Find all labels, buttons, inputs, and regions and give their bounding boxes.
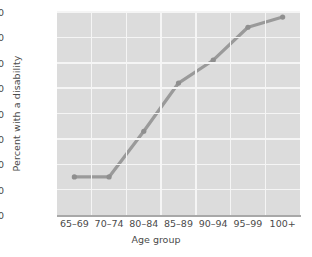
- data-point-marker: [106, 174, 111, 179]
- data-point-marker: [245, 25, 250, 30]
- x-tick-label: 90–94: [199, 218, 228, 229]
- disability-by-age-line-chart: Percent with a disability Age group 0102…: [0, 0, 312, 257]
- gridline-vertical: [265, 12, 267, 215]
- gridline-vertical: [230, 12, 232, 215]
- y-tick-label: 30: [0, 133, 4, 144]
- y-tick-label: 10: [0, 184, 4, 195]
- gridline-vertical: [195, 12, 197, 215]
- x-tick-label: 100+: [270, 218, 296, 229]
- x-tick-label: 95–99: [233, 218, 262, 229]
- y-tick-label: 20: [0, 159, 4, 170]
- y-tick-label: 0: [0, 210, 4, 221]
- y-tick-label: 60: [0, 57, 4, 68]
- gridline-vertical: [126, 12, 128, 215]
- x-tick-label: 80–84: [129, 218, 158, 229]
- gridline-vertical: [160, 12, 162, 215]
- data-point-marker: [141, 129, 146, 134]
- x-tick-label: 85–89: [164, 218, 193, 229]
- gridline-vertical: [91, 12, 93, 215]
- y-axis-title: Percent with a disability: [11, 44, 22, 184]
- y-tick-label: 70: [0, 32, 4, 43]
- data-point-marker: [72, 174, 77, 179]
- x-tick-label: 65–69: [60, 218, 89, 229]
- data-point-marker: [176, 80, 181, 85]
- data-point-marker: [280, 14, 285, 19]
- y-tick-label: 50: [0, 83, 4, 94]
- plot-area: [57, 12, 300, 215]
- x-tick-label: 70–74: [95, 218, 124, 229]
- y-tick-label: 40: [0, 108, 4, 119]
- x-axis-title: Age group: [0, 234, 312, 245]
- y-tick-label: 80: [0, 7, 4, 18]
- x-axis-line: [57, 215, 301, 217]
- series-polyline: [74, 17, 282, 177]
